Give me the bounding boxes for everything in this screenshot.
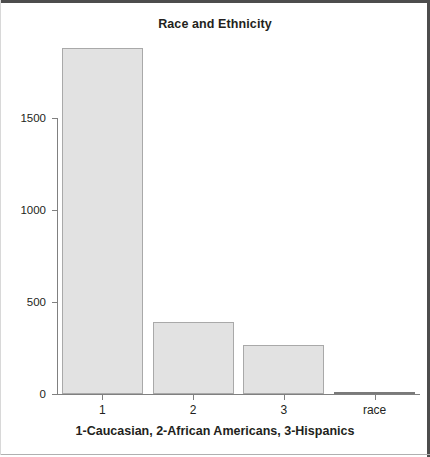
y-axis-tick-label: 1000 [0,204,46,216]
x-axis-tick [102,395,103,400]
bar [243,345,324,394]
x-axis-tick-label: 3 [249,403,319,417]
x-axis-title: 1-Caucasian, 2-African Americans, 3-Hisp… [0,424,430,438]
x-axis-line [57,394,420,395]
x-axis-tick-label: race [340,403,410,417]
bar [334,392,415,395]
x-axis-tick-label: 2 [158,403,228,417]
y-axis-tick [52,394,57,395]
y-axis-tick-label: 0 [0,388,46,400]
frame-bottom-border [0,454,430,455]
frame-top-border [0,0,430,3]
y-axis-line [57,118,58,395]
y-axis-tick [52,118,57,119]
frame-left-border [0,0,1,455]
x-axis-tick-label: 1 [67,403,137,417]
x-axis-tick [375,395,376,400]
chart-title: Race and Ethnicity [0,17,430,31]
y-axis-tick-label: 1500 [0,112,46,124]
y-axis-tick [52,210,57,211]
bar [62,48,143,394]
y-axis-tick-label: 500 [0,296,46,308]
y-axis-tick [52,302,57,303]
x-axis-tick [193,395,194,400]
bar [153,322,234,394]
x-axis-tick [284,395,285,400]
chart-page: Race and Ethnicity 050010001500 123race … [0,0,430,457]
